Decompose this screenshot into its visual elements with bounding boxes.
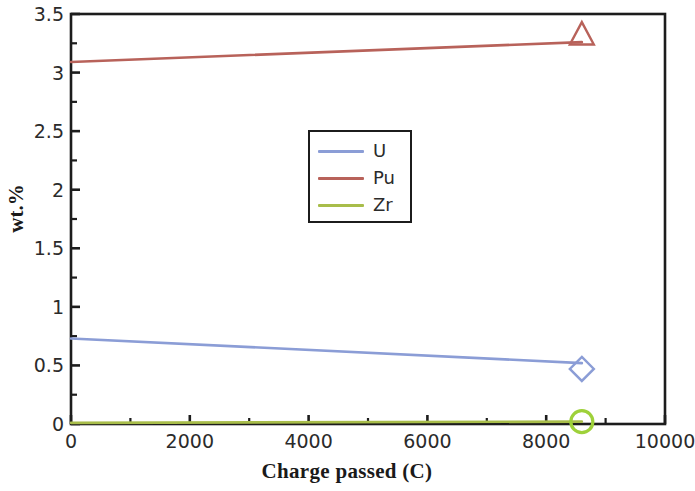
series-line-pu [71, 42, 582, 62]
legend-item-u: U [310, 138, 414, 164]
legend-item-zr: Zr [310, 192, 414, 218]
series-marker-u [570, 357, 594, 381]
series-line-u [71, 338, 582, 363]
legend-label-pu: Pu [373, 169, 395, 187]
legend-label-zr: Zr [373, 196, 393, 214]
x-axis-title: Charge passed (C) [0, 459, 694, 484]
legend-swatch-u [318, 150, 364, 153]
legend-item-pu: Pu [310, 165, 414, 191]
legend-swatch-pu [318, 177, 364, 180]
y-axis-title: wt.% [4, 169, 29, 249]
chart-legend: U Pu Zr [308, 130, 412, 223]
legend-swatch-zr [318, 204, 364, 207]
legend-label-u: U [373, 142, 386, 160]
series-line-zr [71, 422, 582, 423]
